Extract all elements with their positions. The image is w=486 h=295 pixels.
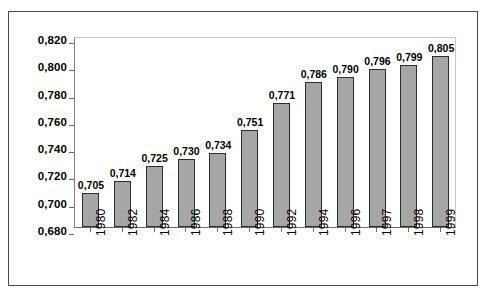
bar-slot: 0,771 — [266, 38, 298, 227]
x-axis-tick: 1998 — [392, 228, 424, 286]
bar-value-label: 0,734 — [198, 139, 238, 151]
x-axis-tick-mark — [185, 228, 186, 232]
x-axis-tick: 1997 — [361, 228, 393, 286]
bar-slot: 0,705 — [75, 38, 107, 227]
x-axis-tick-mark — [154, 228, 155, 232]
x-axis-tick: 1992 — [265, 228, 297, 286]
x-axis-tick: 1994 — [297, 228, 329, 286]
x-axis-tick-mark — [408, 228, 409, 232]
y-axis-tick: 0,740 — [9, 139, 67, 153]
x-axis: 1980198219841986198819901992199419961997… — [74, 228, 456, 286]
y-axis-tick-label: 0,700 — [38, 198, 67, 210]
bar[interactable] — [369, 69, 386, 227]
bar[interactable] — [432, 56, 449, 227]
bar-slot: 0,796 — [362, 38, 394, 227]
x-axis-tick-mark — [249, 228, 250, 232]
y-axis-tick: 0,760 — [9, 112, 67, 126]
y-axis-tick-label: 0,680 — [38, 225, 67, 237]
x-axis-tick-mark — [313, 228, 314, 232]
bar-value-label: 0,714 — [103, 167, 143, 179]
bar-slot: 0,725 — [139, 38, 171, 227]
bar-value-label: 0,805 — [421, 42, 461, 54]
bar-slot: 0,799 — [393, 38, 425, 227]
x-axis-tick-mark — [217, 228, 218, 232]
y-axis-tick-label: 0,720 — [38, 170, 67, 182]
y-axis-tick: 0,820 — [9, 30, 67, 44]
x-axis-tick: 1990 — [233, 228, 265, 286]
bar-slot: 0,805 — [425, 38, 457, 227]
bar[interactable] — [337, 77, 354, 227]
y-axis-tick-label: 0,760 — [38, 116, 67, 128]
y-axis-tick-label: 0,780 — [38, 89, 67, 101]
y-axis-tick: 0,780 — [9, 85, 67, 99]
bar-slot: 0,714 — [107, 38, 139, 227]
y-axis-tick: 0,720 — [9, 166, 67, 180]
x-axis-tick: 1984 — [138, 228, 170, 286]
bar-slot: 0,730 — [171, 38, 203, 227]
x-axis-tick: 1980 — [74, 228, 106, 286]
y-axis-tick-label: 0,820 — [38, 34, 67, 46]
bar[interactable] — [400, 65, 417, 227]
bar-slot: 0,751 — [234, 38, 266, 227]
x-axis-tick-mark — [281, 228, 282, 232]
x-axis-tick-label: 1999 — [445, 209, 457, 237]
bar-value-label: 0,771 — [262, 89, 302, 101]
y-axis-tick: 0,700 — [9, 194, 67, 208]
x-axis-tick-mark — [345, 228, 346, 232]
x-axis-tick-mark — [122, 228, 123, 232]
x-axis-tick: 1988 — [201, 228, 233, 286]
x-axis-tick-mark — [376, 228, 377, 232]
x-axis-tick: 1996 — [329, 228, 361, 286]
bar-slot: 0,734 — [202, 38, 234, 227]
y-axis-tick-label: 0,800 — [38, 61, 67, 73]
x-axis-tick: 1986 — [170, 228, 202, 286]
x-axis-tick: 1982 — [106, 228, 138, 286]
x-axis-tick-mark — [440, 228, 441, 232]
y-axis-tick-label: 0,740 — [38, 143, 67, 155]
x-axis-tick: 1999 — [424, 228, 456, 286]
chart-frame: 0,8200,8000,7800,7600,7400,7200,7000,680… — [8, 11, 478, 286]
y-axis-tick: 0,800 — [9, 57, 67, 71]
bar-value-label: 0,705 — [71, 179, 111, 191]
x-axis-tick-mark — [90, 228, 91, 232]
bar[interactable] — [305, 82, 322, 227]
plot-area: 0,7050,7140,7250,7300,7340,7510,7710,786… — [74, 37, 456, 228]
bar-value-label: 0,751 — [230, 116, 270, 128]
y-axis-tick: 0,680 — [9, 221, 67, 235]
y-axis: 0,8200,8000,7800,7600,7400,7200,7000,680 — [9, 37, 67, 228]
